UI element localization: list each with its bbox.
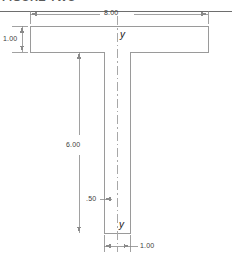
technical-drawing-canvas: FIGURE TWO <box>0 0 232 274</box>
dimension-web-width <box>104 235 138 252</box>
dimension-label-flange-width: 8.00 <box>104 9 118 16</box>
dimension-label-flange-thickness: 1.00 <box>3 35 17 42</box>
dimension-flange-width <box>30 11 208 24</box>
tee-section-outline <box>30 26 208 233</box>
dimension-label-web-thickness: .50 <box>86 195 96 202</box>
tee-section-drawing <box>0 0 232 274</box>
dimension-label-web-height: 6.00 <box>66 141 80 148</box>
dimension-label-web-width: 1.00 <box>140 242 154 249</box>
axis-label-y-top: y <box>120 29 125 40</box>
axis-label-y-bottom: y <box>119 219 124 230</box>
dimension-web-thickness-leader <box>100 197 112 201</box>
